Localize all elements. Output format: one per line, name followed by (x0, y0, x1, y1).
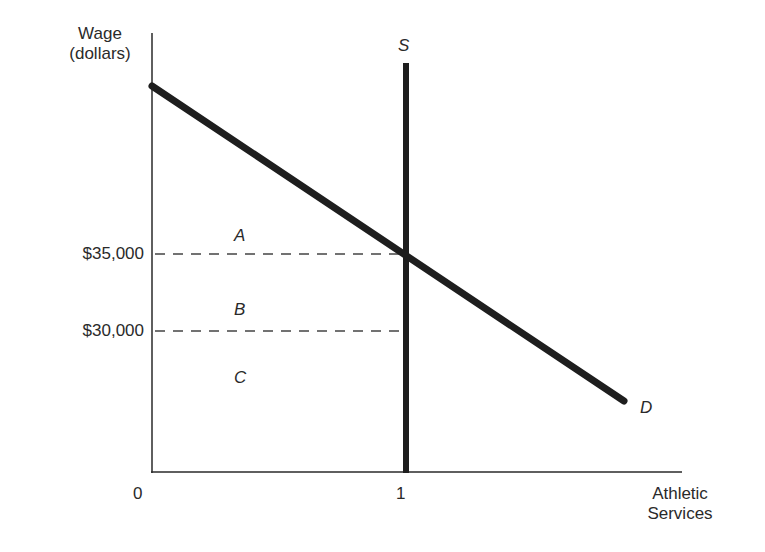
y-axis-label: Wage (dollars) (50, 24, 150, 64)
demand-label: D (640, 398, 652, 418)
chart-canvas (0, 0, 765, 552)
x-axis-label: Athletic Services (630, 484, 730, 524)
x-axis-label-line1: Athletic (630, 484, 730, 504)
area-c-label: C (234, 368, 246, 388)
y-tick-30000: $30,000 (40, 321, 144, 341)
supply-label: S (398, 36, 409, 56)
x-tick-1: 1 (396, 484, 405, 504)
y-tick-35000: $35,000 (40, 244, 144, 264)
x-axis-label-line2: Services (630, 504, 730, 524)
demand-curve (152, 86, 624, 401)
y-axis-label-line2: (dollars) (50, 44, 150, 64)
x-tick-origin: 0 (133, 484, 142, 504)
area-a-label: A (234, 226, 245, 246)
area-b-label: B (234, 300, 245, 320)
y-axis-label-line1: Wage (50, 24, 150, 44)
